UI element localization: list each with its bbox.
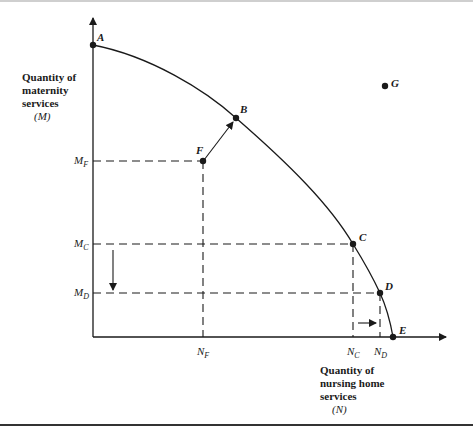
label-c: C: [359, 232, 366, 243]
tick-mf: MF: [74, 155, 88, 169]
ppf-diagram: A B C D E F G Quantity of maternity serv…: [0, 0, 473, 432]
arrow-f-to-b: [204, 122, 233, 160]
tick-mc: MC: [74, 238, 89, 252]
tick-nd: ND: [374, 346, 387, 360]
point-f: [200, 158, 206, 164]
tick-nf: NF: [197, 346, 209, 360]
point-e: [390, 334, 396, 340]
point-b: [233, 115, 239, 121]
point-c: [350, 241, 356, 247]
label-a: A: [97, 32, 104, 43]
x-axis-title: Quantity of nursing home services (N): [320, 364, 385, 416]
label-b: B: [240, 104, 247, 115]
tick-md: MD: [74, 287, 89, 301]
dashed-guides: [93, 161, 380, 337]
y-axis-title: Quantity of maternity services (M): [22, 71, 76, 123]
label-g: G: [391, 78, 399, 89]
tick-nc: NC: [347, 346, 360, 360]
diagram-canvas: [0, 0, 473, 432]
label-e: E: [399, 325, 406, 336]
points: [90, 42, 396, 340]
label-d: D: [385, 281, 393, 292]
point-a: [90, 42, 96, 48]
point-g: [382, 83, 388, 89]
point-d: [377, 290, 383, 296]
label-f: F: [196, 145, 203, 156]
